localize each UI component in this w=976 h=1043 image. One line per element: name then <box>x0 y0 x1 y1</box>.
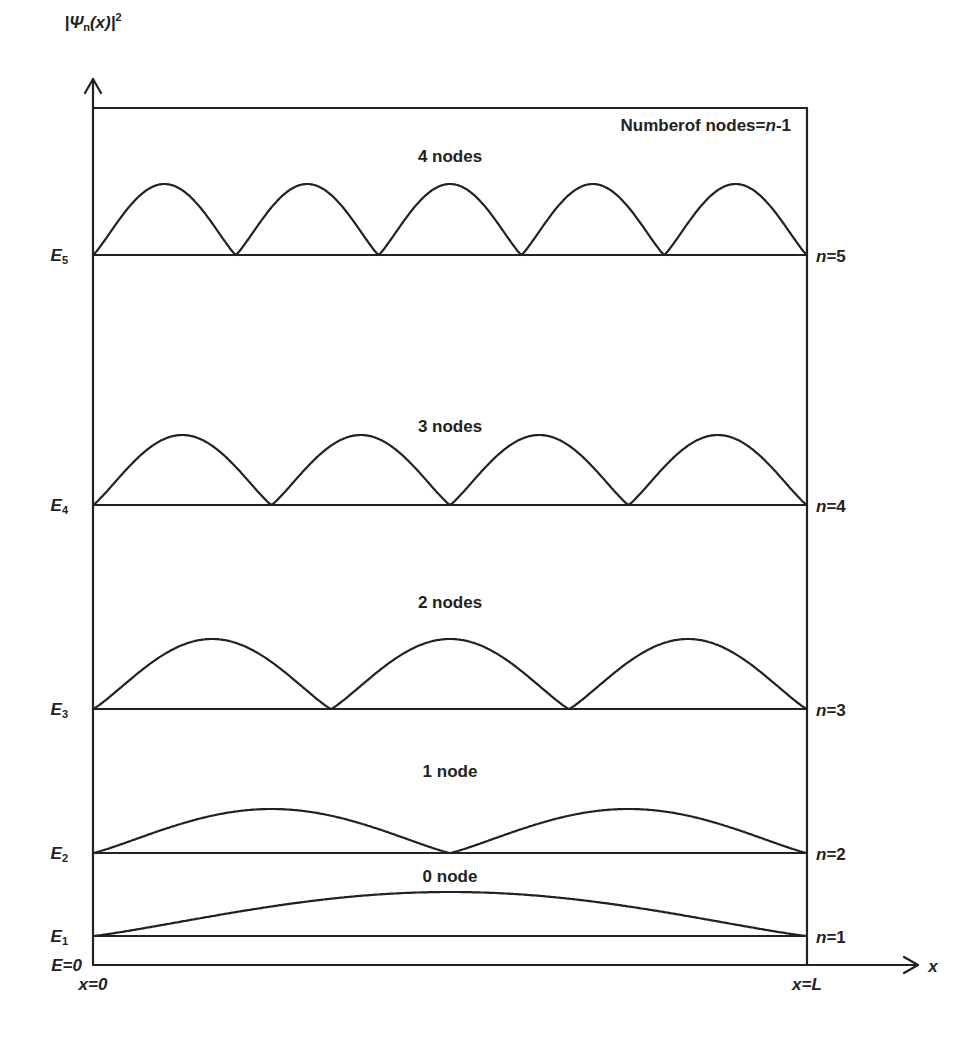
probability-density-curve <box>93 435 807 505</box>
energy-level-n5: E5n=54 nodes <box>51 147 846 266</box>
energy-level-n1: E1n=10 node <box>51 867 846 947</box>
energy-level-n2: E2n=21 node <box>51 762 846 864</box>
energy-zero-label: E=0 <box>51 956 82 975</box>
energy-label: E1 <box>51 927 68 947</box>
quantum-number-label: n=3 <box>816 701 846 720</box>
energy-label: E3 <box>51 700 68 720</box>
y-axis-label: |Ψn(x)|2 <box>64 11 121 33</box>
axes <box>85 79 918 973</box>
energy-label: E2 <box>51 844 68 864</box>
quantum-number-label: n=4 <box>816 497 846 516</box>
probability-density-curve <box>93 184 807 255</box>
node-rule-annotation: Numberof nodes=n-1 <box>620 116 791 135</box>
energy-label: E5 <box>51 246 68 266</box>
energy-label: E4 <box>51 496 69 516</box>
quantum-number-label: n=1 <box>816 928 846 947</box>
energy-level-n4: E4n=43 nodes <box>51 417 847 516</box>
energy-levels: E1n=10 nodeE2n=21 nodeE3n=32 nodesE4n=43… <box>51 147 847 947</box>
probability-density-curve <box>93 809 807 853</box>
probability-density-curve <box>93 892 807 936</box>
x-zero-label: x=0 <box>78 975 108 994</box>
probability-density-curve <box>93 639 807 709</box>
node-count-label: 2 nodes <box>418 593 482 612</box>
node-count-label: 0 node <box>423 867 478 886</box>
node-count-label: 3 nodes <box>418 417 482 436</box>
node-count-label: 4 nodes <box>418 147 482 166</box>
quantum-number-label: n=5 <box>816 247 846 266</box>
quantum-number-label: n=2 <box>816 845 846 864</box>
x-length-label: x=L <box>791 975 822 994</box>
x-axis-label: x <box>927 957 939 976</box>
energy-level-n3: E3n=32 nodes <box>51 593 846 720</box>
energy-level-diagram: |Ψn(x)|2 Numberof nodes=n-1 x x=0 x=L E=… <box>0 0 976 1043</box>
node-count-label: 1 node <box>423 762 478 781</box>
